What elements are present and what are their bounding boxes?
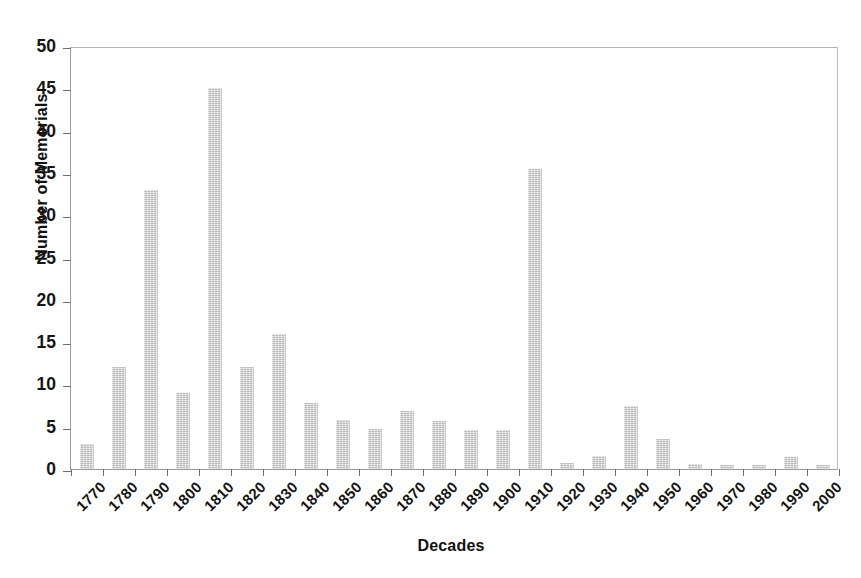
bar <box>176 393 191 469</box>
x-axis-tick <box>167 469 168 476</box>
y-axis-tick <box>63 260 71 261</box>
y-axis-tick <box>63 344 71 345</box>
x-axis-tick <box>199 469 200 476</box>
x-axis-tick <box>743 469 744 476</box>
bar <box>560 463 575 469</box>
y-axis-tick <box>63 429 71 430</box>
bar <box>432 421 447 469</box>
x-axis-tick <box>519 469 520 476</box>
bar <box>208 88 223 469</box>
bar <box>688 464 703 469</box>
bar <box>304 403 319 469</box>
y-axis-tick <box>63 471 71 472</box>
bar <box>656 439 671 469</box>
x-axis-tick <box>807 469 808 476</box>
bar <box>784 457 799 469</box>
x-axis-tick <box>391 469 392 476</box>
bar <box>752 465 767 469</box>
y-axis-tick <box>63 217 71 218</box>
bar <box>624 406 639 469</box>
x-axis-tick <box>71 469 72 476</box>
bar-chart-figure: Number of Memorials Decades 051015202530… <box>0 0 861 578</box>
x-axis-tick <box>839 469 840 476</box>
bar <box>80 444 95 469</box>
x-axis-title: Decades <box>56 537 846 555</box>
y-axis-tick <box>63 48 71 49</box>
y-axis-tick-label: 40 <box>0 123 56 141</box>
x-axis-tick <box>103 469 104 476</box>
bar <box>496 430 511 469</box>
bar <box>400 411 415 469</box>
y-axis-tick-label: 5 <box>0 419 56 437</box>
x-axis-tick <box>231 469 232 476</box>
plot-area <box>70 47 838 470</box>
x-axis-tick <box>775 469 776 476</box>
y-axis-tick <box>63 133 71 134</box>
y-axis-tick-label: 45 <box>0 80 56 98</box>
bar <box>592 456 607 469</box>
y-axis-tick-label: 20 <box>0 292 56 310</box>
x-axis-tick <box>679 469 680 476</box>
y-axis-tick-label: 25 <box>0 250 56 268</box>
y-axis-tick <box>63 302 71 303</box>
y-axis-tick-label: 15 <box>0 334 56 352</box>
y-axis-tick <box>63 90 71 91</box>
y-axis-tick <box>63 386 71 387</box>
y-axis-tick-label: 35 <box>0 165 56 183</box>
x-axis-tick <box>647 469 648 476</box>
bar <box>368 429 383 469</box>
x-axis-tick <box>327 469 328 476</box>
bar <box>240 367 255 469</box>
x-axis-tick <box>583 469 584 476</box>
bar <box>272 334 287 469</box>
bar <box>720 465 735 469</box>
y-axis-tick-label: 50 <box>0 38 56 56</box>
y-axis-tick-label: 0 <box>0 461 56 479</box>
x-axis-tick <box>263 469 264 476</box>
x-axis-tick <box>135 469 136 476</box>
x-axis-tick <box>615 469 616 476</box>
bar <box>112 367 127 469</box>
bar-series <box>71 48 837 469</box>
x-axis-tick <box>455 469 456 476</box>
x-axis-tick <box>423 469 424 476</box>
bar <box>464 430 479 469</box>
x-axis-tick <box>295 469 296 476</box>
x-axis-tick <box>711 469 712 476</box>
bar <box>816 465 831 469</box>
bar <box>336 420 351 469</box>
x-axis-tick <box>359 469 360 476</box>
y-axis-tick-label: 10 <box>0 376 56 394</box>
y-axis-tick-label: 30 <box>0 207 56 225</box>
bar <box>144 190 159 469</box>
y-axis-tick <box>63 175 71 176</box>
x-axis-tick <box>487 469 488 476</box>
x-axis-tick <box>551 469 552 476</box>
bar <box>528 169 543 469</box>
